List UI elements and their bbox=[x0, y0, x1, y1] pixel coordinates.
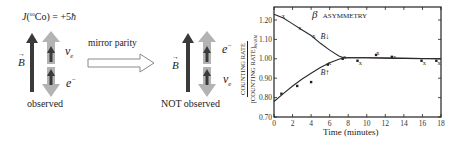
beta-asymmetry-chart: COUNTING RATE [COUNTING RATE]WARM 024681… bbox=[0, 0, 460, 144]
y-tick-label: 0.70 bbox=[259, 113, 272, 122]
x-tick-label: 14 bbox=[400, 119, 408, 128]
fit-curve bbox=[274, 58, 441, 102]
x-tick-label: 0 bbox=[272, 119, 276, 128]
data-point-dot bbox=[435, 60, 437, 62]
y-tick-label: 1.10 bbox=[259, 35, 272, 44]
data-point-dot bbox=[375, 54, 377, 56]
beta-symbol: β bbox=[312, 8, 317, 20]
chart-title: β ASYMMETRY bbox=[312, 8, 367, 20]
field-direction-annotation: B↑ bbox=[320, 68, 329, 77]
y-tick-label: 1.20 bbox=[259, 16, 272, 25]
y-tick-label: 1.00 bbox=[259, 54, 272, 63]
plot-area: 0246810121416180.700.800.901.001.101.20x… bbox=[0, 0, 460, 144]
x-axis-label: Time (minutes) bbox=[323, 127, 378, 137]
x-tick-label: 16 bbox=[419, 119, 427, 128]
data-point-dot bbox=[296, 85, 298, 87]
x-tick-label: 2 bbox=[291, 119, 295, 128]
data-point-x: x bbox=[359, 59, 363, 66]
title-text: ASYMMETRY bbox=[323, 12, 367, 20]
data-point-dot bbox=[420, 60, 422, 62]
y-tick-label: 0.80 bbox=[259, 93, 272, 102]
y-tick-label: 0.90 bbox=[259, 74, 272, 83]
x-tick-label: 4 bbox=[309, 119, 313, 128]
x-tick-label: 18 bbox=[437, 119, 445, 128]
data-point-dot bbox=[310, 81, 312, 83]
x-tick-label: 12 bbox=[382, 119, 390, 128]
data-point-dot bbox=[356, 60, 358, 62]
fit-curve bbox=[274, 14, 441, 59]
data-point-x: x bbox=[423, 59, 427, 66]
field-direction-annotation: B↓ bbox=[320, 32, 329, 41]
